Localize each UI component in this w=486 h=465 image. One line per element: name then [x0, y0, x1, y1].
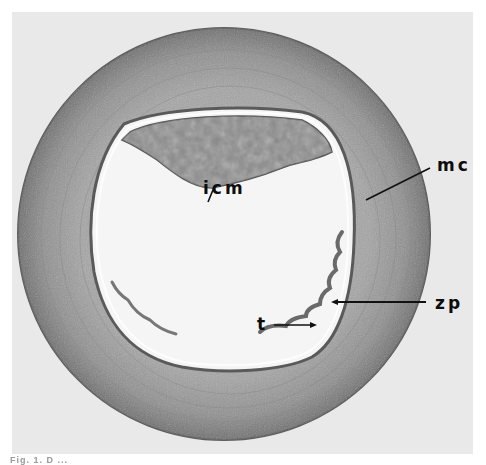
- embryo-illustration: [12, 12, 473, 454]
- label-t: t: [257, 316, 268, 333]
- micrograph: [12, 12, 473, 454]
- label-icm: icm: [203, 180, 246, 197]
- label-zp: zp: [435, 295, 463, 312]
- figure-caption: Fig. 1. D ...: [10, 455, 68, 465]
- label-mc: mc: [437, 157, 471, 174]
